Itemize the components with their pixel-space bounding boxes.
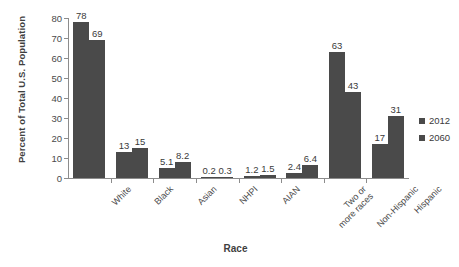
bar-value-label: 43 xyxy=(348,80,359,91)
bar-value-label: 69 xyxy=(92,28,103,39)
y-axis-tick-mark xyxy=(64,18,68,19)
bar-value-label: 5.1 xyxy=(160,156,173,167)
y-axis-tick-label: 40 xyxy=(38,93,62,104)
y-axis-tick-label: 80 xyxy=(38,13,62,24)
x-axis-category-label-line: White xyxy=(110,184,133,207)
y-axis-tick-label: 70 xyxy=(38,33,62,44)
bar xyxy=(201,177,217,178)
x-axis-category-label-line: AIAN xyxy=(280,184,302,206)
x-axis-category-label: Black xyxy=(152,184,175,207)
bar-value-label: 1.5 xyxy=(261,163,274,174)
category-separator xyxy=(324,179,325,183)
bar xyxy=(217,177,233,178)
x-axis-category-label: Two ormore races xyxy=(330,184,376,230)
x-axis-category-label: NHPI xyxy=(237,184,259,206)
bar-value-label: 13 xyxy=(119,140,130,151)
y-axis-tick-label: 0 xyxy=(38,173,62,184)
bar xyxy=(329,52,345,178)
y-axis-tick-mark xyxy=(64,178,68,179)
x-axis-category-label: White xyxy=(110,184,133,207)
y-axis-tick-mark xyxy=(64,138,68,139)
bar-value-label: 15 xyxy=(135,136,146,147)
bar xyxy=(302,165,318,178)
x-axis-category-label: Asian xyxy=(195,184,218,207)
bar-value-label: 63 xyxy=(332,40,343,51)
bar-value-label: 31 xyxy=(390,104,401,115)
y-axis-tick-label: 50 xyxy=(38,73,62,84)
legend-item-label: 2012 xyxy=(429,115,450,126)
y-axis-tick-label: 20 xyxy=(38,133,62,144)
y-axis-tick-mark xyxy=(64,58,68,59)
category-separator xyxy=(196,179,197,183)
x-axis-category-label-line: Asian xyxy=(195,184,218,207)
bar xyxy=(89,40,105,178)
x-axis-category-label-line: NHPI xyxy=(237,184,259,206)
category-separator xyxy=(366,179,367,183)
y-axis-tick-mark xyxy=(64,158,68,159)
x-axis-title-text: Race xyxy=(224,243,248,254)
bar-value-label: 8.2 xyxy=(176,150,189,161)
legend-item[interactable]: 2012 xyxy=(419,112,450,129)
bar-value-label: 6.4 xyxy=(304,153,317,164)
x-axis-category-label-line: Black xyxy=(152,184,175,207)
legend-item[interactable]: 2060 xyxy=(419,129,450,146)
bar-value-label: 78 xyxy=(76,10,87,21)
x-axis-title: Race xyxy=(0,243,459,254)
y-axis-tick-mark xyxy=(64,78,68,79)
y-axis-tick-mark xyxy=(64,38,68,39)
category-separator xyxy=(281,179,282,183)
x-axis-category-label: AIAN xyxy=(280,184,302,206)
legend-swatch-icon xyxy=(419,135,425,141)
y-axis-tick-mark xyxy=(64,118,68,119)
legend-item-label: 2060 xyxy=(429,132,450,143)
bar xyxy=(132,148,148,178)
category-separator xyxy=(111,179,112,183)
bar-chart: Percent of Total U.S. Population 0102030… xyxy=(0,0,459,267)
bar xyxy=(388,116,404,178)
y-axis-tick-label: 10 xyxy=(38,153,62,164)
bar xyxy=(260,175,276,178)
y-axis-line xyxy=(68,18,69,179)
y-axis-tick-label: 30 xyxy=(38,113,62,124)
bar xyxy=(372,144,388,178)
bar xyxy=(116,152,132,178)
category-separator xyxy=(153,179,154,183)
bar xyxy=(244,176,260,178)
y-axis-tick-mark xyxy=(64,98,68,99)
y-axis-tick-label: 60 xyxy=(38,53,62,64)
bar-value-label: 17 xyxy=(374,132,385,143)
bar-value-label: 0.3 xyxy=(219,165,232,176)
y-axis-title: Percent of Total U.S. Population xyxy=(16,5,27,175)
legend-swatch-icon xyxy=(419,118,425,124)
bar xyxy=(159,168,175,178)
bar xyxy=(286,173,302,178)
bar-value-label: 0.2 xyxy=(203,165,216,176)
bar xyxy=(345,92,361,178)
category-separator xyxy=(239,179,240,183)
bar-value-label: 2.4 xyxy=(288,161,301,172)
bar xyxy=(175,162,191,178)
bar xyxy=(73,22,89,178)
plot-area: 01020304050607080 786913155.18.20.20.31.… xyxy=(68,18,409,178)
bar-value-label: 1.2 xyxy=(245,164,258,175)
chart-legend: 20122060 xyxy=(419,112,450,146)
